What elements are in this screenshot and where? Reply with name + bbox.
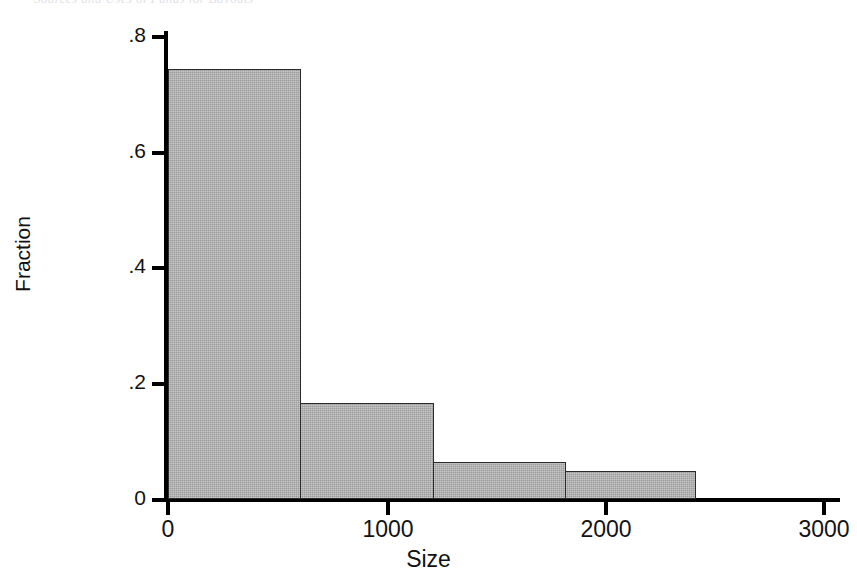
y-tick-label-0: 0 [86, 487, 146, 508]
y-tick-label-0-2: .2 [86, 371, 146, 392]
histogram-bar-3 [433, 462, 566, 499]
y-tick-label-0-6: .6 [86, 140, 146, 161]
y-tick-0-2 [152, 382, 165, 386]
y-tick-0-8 [152, 35, 165, 39]
y-tick-0 [152, 498, 165, 502]
x-tick-1000 [386, 502, 390, 515]
y-tick-label-0-4: .4 [86, 255, 146, 276]
x-tick-3000 [822, 502, 826, 515]
x-tick-label-0: 0 [108, 518, 228, 541]
x-tick-0 [166, 502, 170, 515]
y-tick-0-6 [152, 151, 165, 155]
histogram-bar-2 [300, 403, 434, 499]
histogram-bar-4 [565, 471, 696, 499]
y-tick-label-0-8: .8 [86, 24, 146, 45]
x-tick-2000 [604, 502, 608, 515]
x-tick-label-1000: 1000 [328, 518, 448, 541]
y-axis-title: Fraction [11, 194, 35, 314]
y-tick-0-4 [152, 266, 165, 270]
histogram-figure: 0 .2 .4 .6 .8 0 1000 2000 3000 Fraction … [0, 0, 857, 573]
x-tick-label-3000: 3000 [764, 518, 857, 541]
x-axis-title: Size [0, 546, 857, 573]
x-tick-label-2000: 2000 [546, 518, 666, 541]
histogram-bar-1 [168, 69, 301, 499]
